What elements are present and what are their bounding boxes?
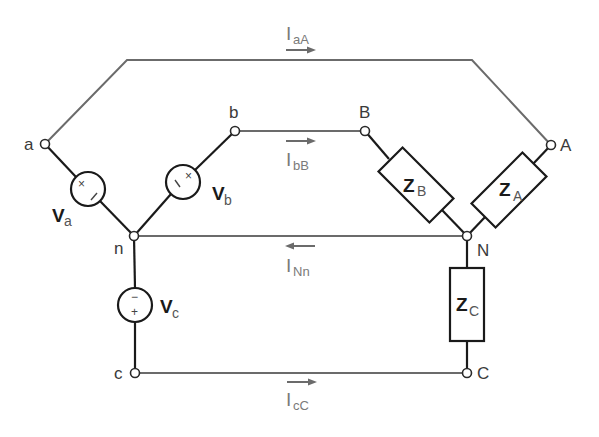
wire-a-to-Va <box>45 144 76 177</box>
impedance-label-main: Z <box>456 294 468 315</box>
current-label-main: I <box>286 389 291 410</box>
source-label-sub: a <box>64 213 72 229</box>
arrowhead-icon <box>307 47 316 54</box>
impedance-label-main: Z <box>403 175 415 196</box>
wire-ZB-to-N <box>442 210 467 236</box>
current-label-sub: cC <box>293 398 309 413</box>
impedance-ZA: Z A <box>472 153 547 228</box>
current-IaA: I aA <box>286 23 316 54</box>
current-label-sub: Nn <box>293 264 310 279</box>
current-label-sub: bB <box>293 158 309 173</box>
plus-marker: + <box>131 305 138 319</box>
impedance-ZC: Z C <box>450 268 484 341</box>
wire-n-to-Vc <box>134 236 135 288</box>
node-a <box>41 140 50 149</box>
circuit-diagram: × V a × V b − + V c Z B Z A Z C <box>0 0 599 437</box>
node-label-b: b <box>229 103 238 122</box>
plus-marker: × <box>78 177 85 191</box>
impedance-label-sub: C <box>469 303 479 319</box>
source-label-sub: c <box>172 305 179 321</box>
current-IbB: I bB <box>286 138 316 174</box>
node-label-N: N <box>477 241 489 260</box>
source-circle-icon <box>166 165 200 199</box>
current-label-main: I <box>286 255 291 276</box>
wire-a-to-A <box>45 60 551 145</box>
node-label-B: B <box>359 103 370 122</box>
node-c <box>131 369 140 378</box>
plus-marker: × <box>185 169 192 183</box>
arrowhead-icon <box>285 243 294 250</box>
node-b <box>231 127 240 136</box>
voltage-source-Vc: − + V c <box>118 288 179 322</box>
minus-marker: − <box>131 290 138 304</box>
arrowhead-icon <box>308 379 317 386</box>
node-B <box>361 127 370 136</box>
node-label-A: A <box>560 136 572 155</box>
wire-b-to-Vb <box>195 131 235 170</box>
current-IcC: I cC <box>286 379 317 414</box>
wire-Vb-to-n <box>134 194 171 236</box>
arrowhead-icon <box>307 138 316 145</box>
node-A <box>547 141 556 150</box>
resistor-box-icon <box>379 148 454 223</box>
voltage-source-Va: × V a <box>52 172 105 229</box>
source-circle-icon <box>71 172 105 206</box>
source-label-sub: b <box>224 192 232 208</box>
current-label-main: I <box>286 23 291 44</box>
current-label-main: I <box>286 149 291 170</box>
current-INn: I Nn <box>285 243 315 280</box>
impedance-label-sub: A <box>513 188 523 204</box>
wire-Va-to-n <box>100 201 134 236</box>
impedance-label-sub: B <box>417 183 426 199</box>
node-n <box>130 232 139 241</box>
current-label-sub: aA <box>293 32 309 47</box>
node-C <box>463 369 472 378</box>
wire-B-to-ZB <box>365 131 389 159</box>
voltage-source-Vb: × V b <box>166 165 232 208</box>
node-N <box>463 232 472 241</box>
node-label-c: c <box>114 364 123 383</box>
impedance-label-main: Z <box>499 179 511 200</box>
node-label-n: n <box>114 239 123 258</box>
node-label-a: a <box>24 135 34 154</box>
node-label-C: C <box>477 364 489 383</box>
impedance-ZB: Z B <box>379 148 454 223</box>
